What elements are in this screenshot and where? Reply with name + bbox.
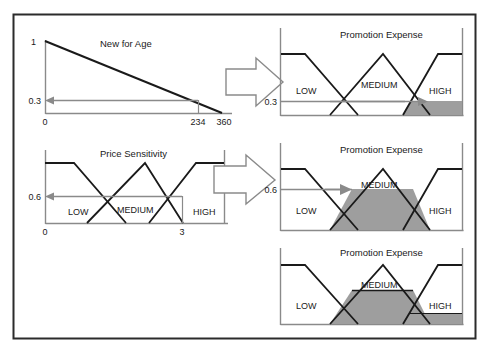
- set-label-low: LOW: [296, 206, 317, 216]
- panel-title-promotion-rule2: Promotion Expense: [340, 144, 423, 155]
- panel-title-new-for-age: New for Age: [100, 38, 152, 49]
- set-label-high: HIGH: [429, 301, 452, 311]
- set-label-low: LOW: [296, 86, 317, 96]
- set-label-medium: MEDIUM: [361, 280, 398, 290]
- panel-promotion-aggregate: Promotion Expense LOW MEDIUM HIGH: [281, 247, 464, 325]
- panel-price-sensitivity: Price Sensitivity 0.6 0 3 LOW MEDIUM HIG…: [28, 148, 228, 237]
- readout-arrow-head-icon: [45, 97, 54, 105]
- set-label-medium: MEDIUM: [117, 205, 154, 215]
- set-label-high: HIGH: [193, 207, 216, 217]
- y-tick-0-6: 0.6: [28, 192, 41, 202]
- figure-canvas: New for Age 1 0.3 0 234 360 Price Sensit…: [0, 0, 489, 353]
- x-tick-360: 360: [216, 117, 231, 127]
- panel-title-promotion-aggregate: Promotion Expense: [340, 247, 423, 258]
- x-tick-234: 234: [190, 117, 205, 127]
- panel-title-promotion-rule1: Promotion Expense: [340, 29, 423, 40]
- y-tick-1: 1: [31, 37, 36, 47]
- panel-title-price-sensitivity: Price Sensitivity: [100, 148, 167, 159]
- set-label-low: LOW: [68, 207, 89, 217]
- readout-arrow-head-icon: [45, 193, 54, 201]
- clip-level-label-0-3: 0.3: [264, 97, 277, 107]
- set-label-high: HIGH: [429, 86, 452, 96]
- x-tick-3: 3: [179, 227, 184, 237]
- membership-low: [281, 54, 358, 115]
- set-label-medium: MEDIUM: [361, 180, 398, 190]
- set-label-medium: MEDIUM: [361, 80, 398, 90]
- set-label-low: LOW: [296, 301, 317, 311]
- clipped-region-high: [403, 101, 462, 115]
- x-tick-0: 0: [42, 117, 47, 127]
- panel-promotion-rule2: Promotion Expense 0.6 LOW MEDIUM HIGH: [264, 143, 463, 231]
- membership-line-new-for-age: [45, 41, 222, 113]
- panel-promotion-rule1: Promotion Expense 0.3 LOW MEDIUM HIGH: [264, 28, 463, 116]
- set-label-high: HIGH: [429, 206, 452, 216]
- clip-level-label-0-6: 0.6: [264, 185, 277, 195]
- y-tick-0-3: 0.3: [28, 96, 41, 106]
- panel-new-for-age: New for Age 1 0.3 0 234 360: [28, 37, 232, 127]
- x-tick-0: 0: [42, 227, 47, 237]
